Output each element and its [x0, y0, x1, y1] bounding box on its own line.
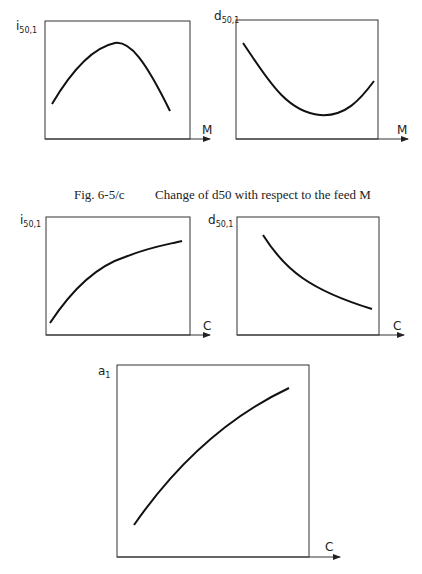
y-axis-label: a1: [98, 364, 110, 380]
x-axis-label: C: [393, 319, 401, 333]
chart-i50-vs-M: i50,1 M: [16, 19, 212, 139]
chart-a1-vs-C: a1 C: [98, 364, 340, 557]
figure-caption: Change of d50 with respect to the feed M: [155, 187, 371, 203]
x-axis-label: M: [202, 123, 212, 137]
figure-canvas: i50,1 M d50,1 M i50,1 C d50,1 C a1 C: [0, 0, 422, 574]
x-axis-label: C: [203, 319, 211, 333]
y-axis-label: d50,1: [214, 9, 239, 25]
x-axis-label: M: [397, 123, 407, 137]
y-axis-label: i50,1: [20, 213, 41, 229]
y-axis-label: i50,1: [16, 19, 37, 35]
chart-d50-vs-M: d50,1 M: [214, 9, 408, 139]
chart-i50-vs-C: i50,1 C: [20, 213, 211, 335]
x-axis-label: C: [325, 540, 333, 554]
chart-d50-vs-C: d50,1 C: [208, 213, 404, 335]
figure-number: Fig. 6-5/c: [74, 187, 125, 203]
y-axis-label: d50,1: [208, 213, 233, 229]
